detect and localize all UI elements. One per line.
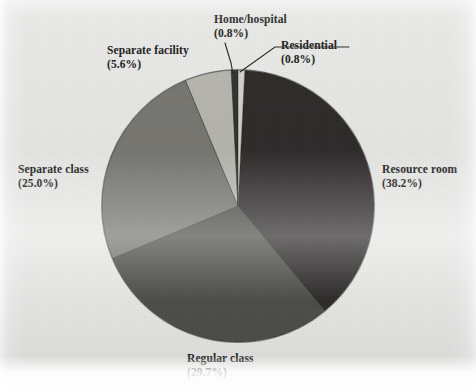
pie-chart-svg: Resource room (38.2%)Regular class (29.7…: [0, 0, 476, 391]
pie-label-separate-class-name: Separate class: [18, 163, 89, 175]
pie-label-separate-facility: Separate facility (5.6%): [107, 44, 189, 71]
pie-label-resource-room: Resource room (38.2%): [382, 163, 457, 190]
pie-label-separate-class-percent: (25.0%): [18, 177, 89, 191]
pie-label-resource-room-name: Resource room: [382, 163, 457, 175]
scanned-figure-page: Resource room (38.2%)Regular class (29.7…: [0, 0, 476, 391]
pie-label-regular-class: Regular class (29.7%): [187, 352, 254, 379]
pie-label-home-hospital-percent: (0.8%): [214, 27, 287, 41]
pie-label-separate-facility-name: Separate facility: [107, 44, 189, 56]
pie-label-residential: Residential (0.8%): [281, 39, 337, 66]
pie-label-home-hospital: Home/hospital (0.8%): [214, 13, 287, 40]
pie-label-residential-percent: (0.8%): [281, 53, 337, 67]
pie-slice-group: Resource room (38.2%)Regular class (29.7…: [102, 70, 374, 342]
pie-label-regular-class-name: Regular class: [187, 352, 254, 364]
pie-chart: Resource room (38.2%)Regular class (29.7…: [0, 0, 476, 391]
pie-label-home-hospital-name: Home/hospital: [214, 13, 287, 25]
pie-label-separate-facility-percent: (5.6%): [107, 58, 189, 72]
pie-label-regular-class-percent: (29.7%): [187, 366, 254, 380]
pie-label-separate-class: Separate class (25.0%): [18, 163, 89, 190]
pie-label-resource-room-percent: (38.2%): [382, 177, 457, 191]
pie-label-residential-name: Residential: [281, 39, 337, 51]
